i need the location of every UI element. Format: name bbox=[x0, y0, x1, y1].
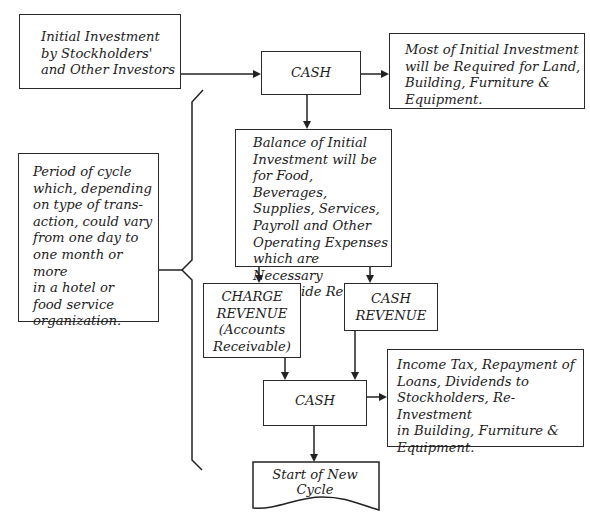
balance-of-investment-text: Balance of Initial Investment will be fo… bbox=[253, 135, 391, 301]
charge-revenue-box: CHARGE REVENUE (Accounts Receivable) bbox=[203, 283, 301, 358]
cash-bottom-box: CASH bbox=[263, 380, 367, 426]
arrowhead-icon bbox=[303, 121, 311, 129]
cash-bottom-text: CASH bbox=[264, 393, 366, 410]
income-tax-text: Income Tax, Repayment of Loans, Dividend… bbox=[397, 357, 583, 457]
arrowhead-icon bbox=[281, 372, 289, 380]
income-tax-box: Income Tax, Repayment of Loans, Dividend… bbox=[387, 349, 584, 447]
most-of-investment-text: Most of Initial Investment will be Requi… bbox=[405, 42, 584, 108]
cash-top-box: CASH bbox=[261, 51, 361, 95]
cash-top-text: CASH bbox=[262, 65, 360, 82]
arrowhead-icon bbox=[253, 70, 261, 78]
arrowhead-icon bbox=[381, 70, 389, 78]
period-of-cycle-text: Period of cycle which, depending on type… bbox=[33, 164, 158, 330]
start-new-cycle-text: Start of New Cycle bbox=[253, 467, 377, 497]
arrowhead-icon bbox=[379, 393, 387, 401]
cash-revenue-box: CASH REVENUE bbox=[344, 283, 438, 331]
initial-investment-text: Initial Investment by Stockholders' and … bbox=[41, 29, 180, 79]
most-of-investment-box: Most of Initial Investment will be Requi… bbox=[389, 33, 585, 109]
initial-investment-box: Initial Investment by Stockholders' and … bbox=[19, 14, 181, 89]
period-of-cycle-box: Period of cycle which, depending on type… bbox=[18, 153, 159, 322]
arrowhead-icon bbox=[310, 454, 318, 462]
balance-of-investment-box: Balance of Initial Investment will be fo… bbox=[235, 129, 392, 267]
arrowhead-icon bbox=[351, 372, 359, 380]
charge-revenue-text: CHARGE REVENUE (Accounts Receivable) bbox=[204, 289, 300, 355]
cycle-bracket bbox=[182, 90, 203, 470]
cash-revenue-text: CASH REVENUE bbox=[345, 291, 437, 324]
